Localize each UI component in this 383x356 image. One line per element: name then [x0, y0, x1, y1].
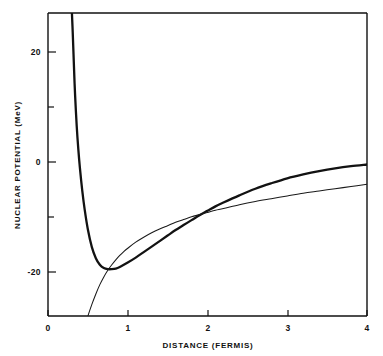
y-tick-label-0: 0 [36, 157, 41, 167]
x-tick-label-4: 4 [364, 323, 369, 333]
x-tick-label-2: 2 [205, 323, 210, 333]
figure-container: 0 1 2 3 4 20 0 -20 DISTANCE (FERMIS) NUC… [0, 0, 383, 356]
y-tick-label-neg20: -20 [28, 267, 42, 277]
x-tick-label-0: 0 [45, 323, 50, 333]
x-axis-title: DISTANCE (FERMIS) [163, 341, 254, 350]
nuclear-potential-chart: 0 1 2 3 4 20 0 -20 DISTANCE (FERMIS) NUC… [0, 0, 383, 356]
x-tick-label-3: 3 [285, 323, 290, 333]
x-tick-label-1: 1 [125, 323, 130, 333]
y-tick-label-20: 20 [31, 47, 41, 57]
chart-background [0, 0, 383, 356]
y-axis-title: NUCLEAR POTENTIAL (MeV) [13, 101, 22, 229]
